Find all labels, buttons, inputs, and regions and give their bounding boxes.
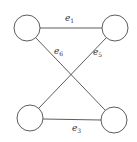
graph-svg: e1 e6 e5 e3 <box>0 0 137 142</box>
graph-diagram: e1 e6 e5 e3 <box>0 0 137 142</box>
node-top-left <box>14 15 40 41</box>
node-bottom-right <box>101 107 127 133</box>
edge-label-e1: e1 <box>65 13 74 24</box>
edge-label-e5: e5 <box>93 47 102 58</box>
node-bottom-left <box>17 105 43 131</box>
edge-e3 <box>43 119 101 120</box>
edge-label-e3: e3 <box>72 123 81 134</box>
edge-label-e6: e6 <box>54 46 63 57</box>
node-top-right <box>102 15 128 41</box>
